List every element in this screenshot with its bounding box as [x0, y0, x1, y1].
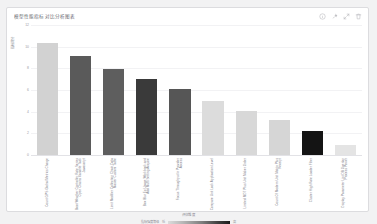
bar-slot: [230, 25, 263, 155]
chart-plot-area: 指标得分 024681012 Count GPS Global Metrics …: [7, 25, 370, 196]
delete-icon[interactable]: [355, 13, 362, 20]
bar-slot: [31, 25, 64, 155]
x-label-slot: Box Blur Ex Usage Workbook and Add Multi…: [130, 158, 163, 212]
pin-icon[interactable]: [331, 13, 338, 20]
chart-legend: 指标强度等级 低 高: [7, 220, 370, 222]
x-axis-tick-label: Box Blur Ex Usage Workbook and Add Multi…: [143, 158, 150, 211]
legend-min-label: 低: [162, 220, 165, 222]
y-axis-tick-label: 10: [16, 45, 29, 49]
chart-axes: [31, 25, 362, 156]
x-axis-tick-label: Compare Unit Lock Application Level: [211, 158, 214, 211]
x-axis-tick-label: Display Parameter List DB Overlap Proces…: [342, 158, 349, 211]
info-icon[interactable]: [319, 13, 326, 20]
bar-series: [31, 25, 362, 155]
x-label-slot: Compare Unit Lock Application Level: [196, 158, 229, 212]
bar[interactable]: [37, 43, 58, 155]
x-axis-tick-label: Count GPS Global Metrics Charge: [46, 158, 49, 211]
bar[interactable]: [202, 101, 223, 155]
x-axis-tick-label: Count Of Modern Unit Matrix Plus Receipt: [276, 158, 283, 211]
bar[interactable]: [103, 69, 124, 155]
x-label-slot: Focus Throughput In Provider Access: [163, 158, 196, 212]
axis-baseline: [31, 155, 362, 156]
bar[interactable]: [236, 111, 257, 155]
bar[interactable]: [169, 89, 190, 155]
bar-slot: [64, 25, 97, 155]
bar[interactable]: [70, 56, 91, 155]
bar-slot: [163, 25, 196, 155]
chart-card: 模型性能指标对比分析图表: [6, 7, 369, 212]
x-axis-tick-label: Boot Weather Controller Rate Series Open…: [76, 158, 86, 211]
bar-slot: [329, 25, 362, 155]
bar-slot: [196, 25, 229, 155]
y-axis-tick-label: 12: [16, 23, 29, 27]
x-label-slot: Cluster High Rate Loader Filter: [296, 158, 329, 212]
legend-max-label: 高: [233, 220, 236, 222]
x-axis-tick-label: Focus Throughput In Provider Access: [177, 158, 184, 211]
bar[interactable]: [335, 145, 356, 155]
x-label-slot: Count GPS Global Metrics Charge: [31, 158, 64, 212]
y-axis-tick-label: 8: [16, 66, 29, 70]
x-axis-tick-label: Limit Modifier Collection Chain Data Mas…: [110, 158, 117, 211]
x-axis-labels: Count GPS Global Metrics ChargeBoot Weat…: [31, 158, 362, 212]
y-axis-ticks: 024681012: [16, 25, 29, 156]
bar[interactable]: [136, 79, 157, 155]
y-axis-tick-label: 0: [16, 153, 29, 157]
x-axis-tick-label: Cluster High Rate Loader Filter: [311, 158, 314, 211]
x-label-slot: Limit Modifier Collection Chain Data Mas…: [97, 158, 130, 212]
bar[interactable]: [269, 120, 290, 155]
x-label-slot: Limited MDT Plus Unit Maker Order: [230, 158, 263, 212]
legend-title: 指标强度等级: [141, 220, 159, 222]
bar[interactable]: [302, 131, 323, 155]
card-toolbar: [319, 13, 362, 20]
y-axis-tick-label: 2: [16, 131, 29, 135]
page-title: 模型性能指标对比分析图表: [14, 14, 75, 20]
bar-slot: [263, 25, 296, 155]
expand-icon[interactable]: [343, 13, 350, 20]
x-axis-title: 评估维度: [7, 213, 370, 218]
x-label-slot: Count Of Modern Unit Matrix Plus Receipt: [263, 158, 296, 212]
card-header: 模型性能指标对比分析图表: [7, 8, 368, 25]
legend-colorbar: [168, 221, 230, 222]
y-axis-tick-label: 6: [16, 88, 29, 92]
bar-slot: [296, 25, 329, 155]
y-axis-tick-label: 4: [16, 110, 29, 114]
x-label-slot: Boot Weather Controller Rate Series Open…: [64, 158, 97, 212]
bar-slot: [97, 25, 130, 155]
x-label-slot: Display Parameter List DB Overlap Proces…: [329, 158, 362, 212]
bar-slot: [130, 25, 163, 155]
x-axis-tick-label: Limited MDT Plus Unit Maker Order: [244, 158, 247, 211]
